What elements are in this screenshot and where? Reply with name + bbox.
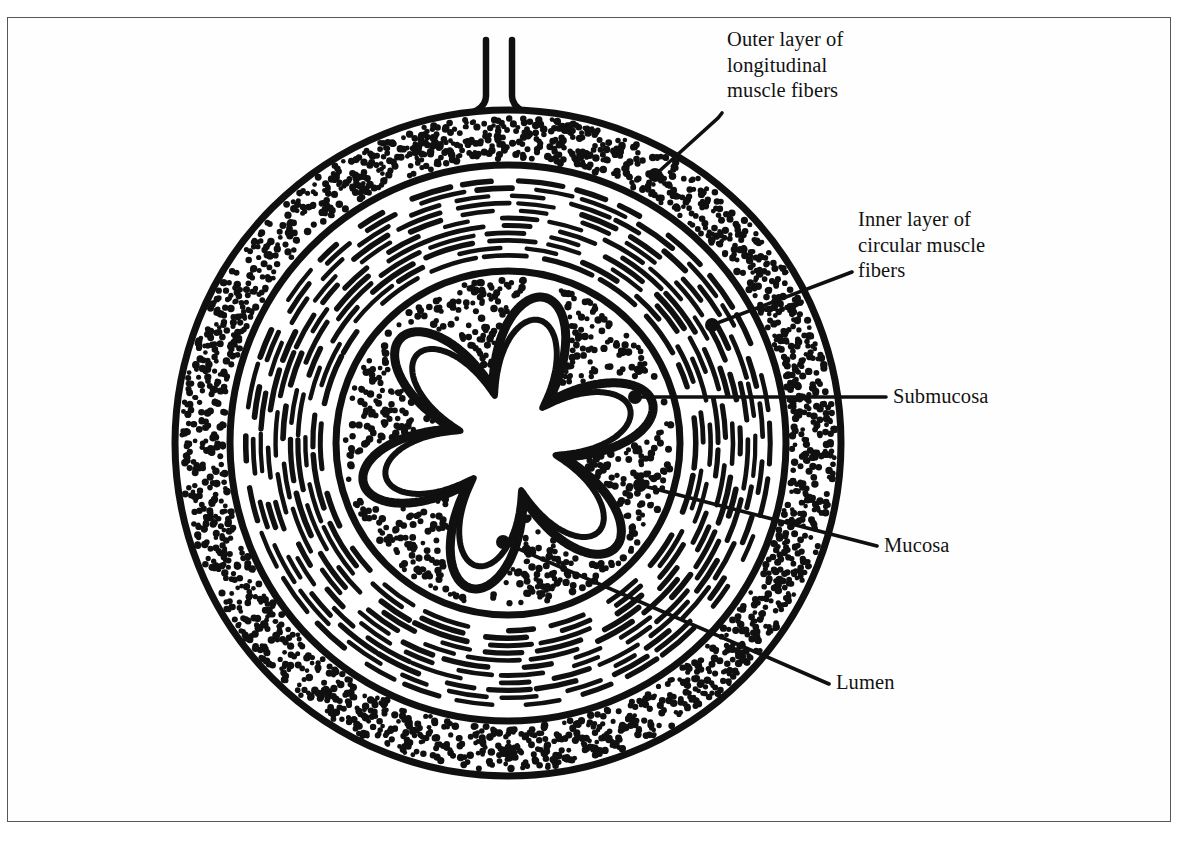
label-lumen: Lumen xyxy=(836,670,895,696)
leader-anchor-dot-mucosa xyxy=(633,478,647,492)
label-inner-circular-muscle: Inner layer of circular muscle fibers xyxy=(858,207,985,284)
label-submucosa: Submucosa xyxy=(893,384,988,410)
leader-anchor-dot-submucosa xyxy=(628,390,642,404)
leader-anchor-dot-lumen xyxy=(496,535,510,549)
leader-anchor-dot-inner-circular xyxy=(705,318,719,332)
label-outer-longitudinal-muscle: Outer layer of longitudinal muscle fiber… xyxy=(727,27,843,104)
leader-anchor-dot-outer-longitudinal xyxy=(648,168,662,182)
label-mucosa: Mucosa xyxy=(884,533,950,559)
tissue-layers xyxy=(175,40,841,776)
intestine-cross-section-drawing xyxy=(0,0,1184,843)
figure-page: Outer layer of longitudinal muscle fiber… xyxy=(0,0,1184,843)
